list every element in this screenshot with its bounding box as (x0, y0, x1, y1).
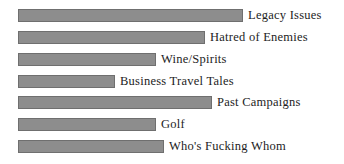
bar-row: Wine/Spirits (0, 53, 344, 66)
bar (18, 53, 156, 66)
bar (18, 140, 164, 153)
bar-row: Golf (0, 118, 344, 131)
bar-label: Wine/Spirits (161, 51, 227, 68)
bar-label: Past Campaigns (217, 94, 301, 111)
horizontal-bar-chart: Legacy IssuesHatred of EnemiesWine/Spiri… (0, 0, 344, 164)
bar-label: Hatred of Enemies (210, 29, 308, 46)
bar (18, 31, 205, 44)
bar (18, 75, 115, 88)
bar-row: Past Campaigns (0, 96, 344, 109)
bar-row: Business Travel Tales (0, 75, 344, 88)
bar (18, 96, 212, 109)
bar-label: Who's Fucking Whom (169, 138, 286, 155)
bar-label: Golf (161, 116, 185, 133)
bar-row: Hatred of Enemies (0, 31, 344, 44)
bar-row: Who's Fucking Whom (0, 140, 344, 153)
bar (18, 9, 243, 22)
bar-label: Legacy Issues (248, 7, 322, 24)
bar-label: Business Travel Tales (120, 73, 234, 90)
bar (18, 118, 156, 131)
bar-row: Legacy Issues (0, 9, 344, 22)
